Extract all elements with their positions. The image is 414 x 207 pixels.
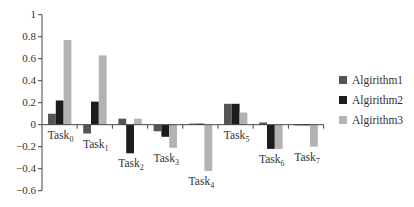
bar-algirithm2-task0 (56, 101, 64, 125)
legend-item-algirithm2: Algirithm2 (339, 94, 403, 107)
legend-swatch (339, 76, 347, 84)
bars (48, 40, 318, 171)
bar-algirithm2-task5 (232, 104, 240, 125)
bar-algirithm2-task6 (267, 125, 275, 149)
x-label-task4: Task4 (189, 175, 215, 190)
legend-swatch (339, 96, 347, 104)
bar-algirithm3-task2 (134, 119, 142, 125)
bar-algirithm1-task1 (83, 125, 91, 134)
x-label-task3: Task3 (153, 152, 179, 167)
bar-algirithm1-task3 (154, 125, 162, 132)
bar-algirithm1-task5 (224, 104, 232, 125)
y-tick-label: −0.6 (16, 184, 36, 196)
y-tick-label: 0.2 (22, 96, 36, 108)
bar-algirithm3-task4 (204, 125, 212, 171)
bar-chart: 10.80.60.40.20−0.2−0.4−0.6 Task0Task1Tas… (0, 0, 414, 207)
legend-label: Algirithm3 (352, 114, 403, 127)
x-label-task7: Task7 (294, 151, 320, 166)
y-tick-label: 0 (31, 118, 37, 130)
y-tick-label: 0.8 (22, 30, 36, 42)
legend-item-algirithm3: Algirithm3 (339, 114, 403, 127)
bar-algirithm3-task3 (169, 125, 177, 148)
legend-item-algirithm1: Algirithm1 (339, 74, 403, 87)
bar-algirithm2-task1 (91, 102, 99, 125)
bar-algirithm3-task0 (64, 40, 72, 125)
legend-swatch (339, 116, 347, 124)
x-label-task1: Task1 (83, 138, 109, 153)
bar-algirithm2-task2 (126, 125, 134, 154)
bar-algirithm1-task0 (48, 114, 56, 125)
y-tick-label: −0.2 (16, 140, 36, 152)
x-label-task5: Task5 (224, 129, 250, 144)
y-tick-label: 1 (31, 8, 37, 20)
x-label-task2: Task2 (118, 157, 144, 172)
y-axis: 10.80.60.40.20−0.2−0.4−0.6 (16, 8, 42, 196)
legend: Algirithm1Algirithm2Algirithm3 (339, 74, 403, 127)
bar-algirithm3-task1 (99, 55, 107, 124)
legend-label: Algirithm1 (352, 74, 403, 87)
bar-algirithm1-task2 (118, 119, 126, 125)
legend-label: Algirithm2 (352, 94, 403, 107)
x-label-task6: Task6 (259, 153, 285, 168)
y-tick-label: −0.4 (16, 162, 36, 174)
bar-algirithm2-task3 (161, 125, 169, 137)
y-tick-label: 0.4 (22, 74, 36, 86)
bar-algirithm3-task6 (275, 125, 283, 149)
y-tick-label: 0.6 (22, 52, 36, 64)
bar-algirithm3-task5 (240, 113, 248, 125)
bar-algirithm3-task7 (310, 125, 318, 147)
x-label-task0: Task0 (48, 129, 74, 144)
